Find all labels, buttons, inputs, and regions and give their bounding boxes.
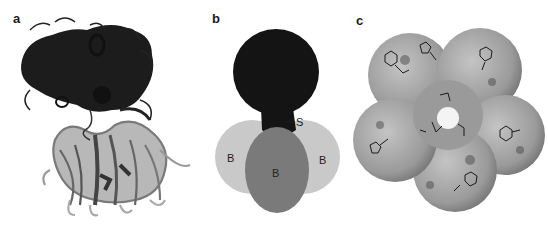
panel-b: b S B B B [200,0,348,228]
s-label: S [296,116,303,128]
b-label-center: B [272,167,279,179]
ribbon-structure-figure [0,0,200,228]
panel-c: c [348,0,548,228]
top-domain [233,29,319,115]
lower-domain [43,122,190,216]
central-pore [437,107,459,129]
b-label-left: B [227,152,234,164]
panel-a: a [0,0,200,228]
domain-schematic: S B B B [200,0,348,228]
surface-structure-figure [348,0,548,228]
b-label-right: B [319,154,326,166]
ring-assembly [353,28,545,212]
